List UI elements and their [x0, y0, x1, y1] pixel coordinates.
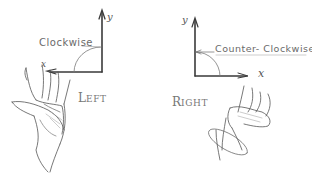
- right-rotation-arc: [196, 52, 220, 76]
- right-title: RIGHT: [172, 91, 208, 110]
- left-title-initial: L: [78, 91, 86, 105]
- left-rotation-arc: [74, 47, 101, 72]
- right-title-initial: R: [172, 95, 181, 109]
- diagram-canvas: [0, 0, 312, 180]
- right-rotation-label: Counter- Clockwise: [215, 43, 312, 54]
- right-hand-sketch: [205, 86, 270, 160]
- right-title-rest: IGHT: [181, 98, 208, 108]
- left-hand-sketch: [12, 65, 70, 172]
- left-rotation-label: Clockwise: [39, 37, 93, 48]
- left-x-label: x: [41, 59, 46, 69]
- left-title-rest: EFT: [86, 94, 107, 104]
- right-y-label: y: [182, 14, 188, 25]
- right-x-label: x: [258, 67, 264, 80]
- left-title: LEFT: [78, 87, 107, 106]
- left-y-label: y: [107, 11, 113, 22]
